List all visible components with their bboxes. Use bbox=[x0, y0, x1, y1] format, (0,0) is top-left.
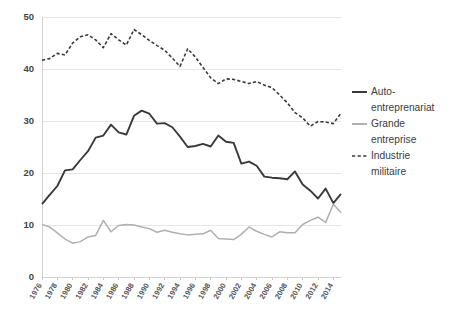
legend-entry[interactable]: Auto- entreprenariat bbox=[352, 84, 463, 115]
x-tick-label: 2006 bbox=[257, 282, 273, 301]
x-axis-tick-labels: 1976197819801982198419861988199019921994… bbox=[27, 281, 335, 301]
legend-label: Industrie militaire bbox=[371, 148, 410, 179]
series-line-3 bbox=[42, 29, 341, 126]
x-tick-label: 1988 bbox=[119, 282, 135, 301]
legend-line-swatch-icon bbox=[352, 85, 367, 99]
x-tick-label: 2014 bbox=[319, 281, 336, 301]
legend-entry[interactable]: Industrie militaire bbox=[352, 148, 463, 179]
y-tick-label: 40 bbox=[23, 63, 34, 74]
x-tick-label: 1998 bbox=[196, 282, 212, 301]
y-tick-label: 20 bbox=[23, 167, 34, 178]
x-tick-label: 2010 bbox=[288, 282, 304, 301]
chart-legend: Auto- entreprenariatGrande entrepriseInd… bbox=[352, 84, 463, 180]
x-tick-label: 1980 bbox=[58, 282, 74, 301]
x-tick-label: 1982 bbox=[73, 282, 89, 301]
x-tick-label: 1996 bbox=[181, 282, 197, 301]
x-tick-label: 1994 bbox=[165, 281, 182, 301]
x-tick-label: 1990 bbox=[135, 282, 151, 301]
x-tick-label: 2004 bbox=[242, 281, 259, 301]
x-tick-label: 1978 bbox=[43, 282, 59, 301]
data-series bbox=[42, 29, 341, 243]
legend-line-swatch-icon bbox=[352, 117, 367, 131]
legend-entry[interactable]: Grande entreprise bbox=[352, 116, 463, 147]
x-tick-label: 2002 bbox=[227, 282, 243, 301]
x-tick-label: 1984 bbox=[89, 281, 106, 301]
y-axis-tick-labels: 01020304050 bbox=[23, 11, 34, 282]
legend-label: Grande entreprise bbox=[371, 116, 416, 147]
x-tick-label: 2012 bbox=[303, 282, 319, 301]
x-tick-label: 1976 bbox=[27, 282, 43, 301]
y-tick-label: 0 bbox=[29, 271, 34, 282]
x-tick-label: 1992 bbox=[150, 282, 166, 301]
y-tick-label: 50 bbox=[23, 11, 34, 22]
legend-label: Auto- entreprenariat bbox=[371, 84, 434, 115]
line-chart: 01020304050 1976197819801982198419861988… bbox=[0, 0, 463, 310]
x-tick-label: 2000 bbox=[211, 282, 227, 301]
x-tick-label: 1986 bbox=[104, 282, 120, 301]
y-tick-label: 10 bbox=[23, 219, 34, 230]
x-tick-label: 2008 bbox=[273, 282, 289, 301]
series-line-2 bbox=[42, 204, 341, 243]
legend-line-swatch-icon bbox=[352, 149, 367, 163]
series-line-1 bbox=[42, 111, 341, 205]
y-tick-label: 30 bbox=[23, 115, 34, 126]
